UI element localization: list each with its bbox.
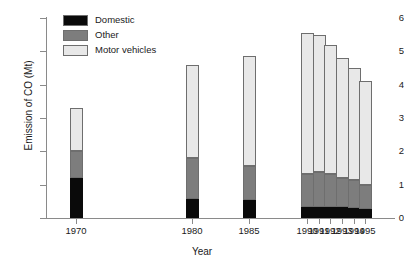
bar-segment-other [359,185,372,209]
x-axis-tick [330,219,331,224]
co-emission-stacked-bar-chart: 0123456 19701980198519901991199219931994… [0,0,404,268]
bar-1995 [359,18,372,218]
x-axis-tick [319,219,320,224]
x-axis-tick [354,219,355,224]
legend-label: Other [95,30,119,40]
y-axis-tick-label: 0 [368,213,404,223]
bar-segment-motor-vehicles [243,56,256,165]
x-axis-tick-label: 1985 [227,226,271,236]
legend-label: Motor vehicles [95,45,156,55]
bar-segment-domestic [359,209,372,218]
y-axis-tick-label: 4 [368,80,404,90]
x-axis-tick-label: 1980 [170,226,214,236]
bar-segment-domestic [186,199,199,218]
bar-segment-other [70,151,83,178]
legend-item: Other [63,28,156,42]
y-axis-tick-label: 1 [368,180,404,190]
bar-segment-motor-vehicles [70,108,83,151]
legend-swatch-motor-vehicles [63,45,88,56]
x-axis-tick-label: 1995 [343,226,387,236]
y-axis-tick-label: 5 [368,46,404,56]
x-axis-tick-label: 1970 [54,226,98,236]
y-axis-tick [40,85,46,86]
bar-1985 [243,18,256,218]
y-axis-tick-label: 6 [368,13,404,23]
bar-segment-motor-vehicles [186,65,199,158]
legend-item: Domestic [63,13,156,27]
bar-segment-domestic [70,178,83,218]
y-axis-tick [40,185,46,186]
bar-segment-other [186,158,199,199]
x-axis-tick [192,219,193,224]
x-axis-title: Year [0,246,404,257]
bar-segment-motor-vehicles [359,81,372,184]
x-axis-tick [307,219,308,224]
y-axis-tick [40,218,46,219]
y-axis-line [46,17,47,219]
legend-item: Motor vehicles [63,43,156,57]
y-axis-tick-label: 3 [368,113,404,123]
legend-swatch-other [63,30,88,41]
x-axis-tick [365,219,366,224]
y-axis-tick [40,18,46,19]
bar-segment-domestic [243,200,256,218]
x-axis-tick [249,219,250,224]
y-axis-tick [40,151,46,152]
legend-label: Domestic [95,15,135,25]
x-axis-tick [342,219,343,224]
y-axis-tick [40,118,46,119]
bar-segment-other [243,166,256,200]
y-axis-tick [40,51,46,52]
x-axis-tick [76,219,77,224]
legend: DomesticOtherMotor vehicles [63,13,156,58]
y-axis-title: Emission of CO (Mt) [23,16,34,196]
bar-1980 [186,18,199,218]
y-axis-tick-label: 2 [368,146,404,156]
legend-swatch-domestic [63,15,88,26]
